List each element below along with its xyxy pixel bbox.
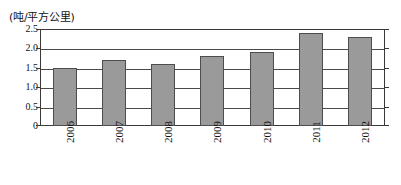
bar-2009[interactable] (200, 56, 224, 126)
y-tick-label-1-0: 1.0 (2, 82, 38, 92)
bar-slot (286, 29, 335, 126)
bar-slot (188, 29, 237, 126)
x-tick-label-2012: 2012 (360, 121, 371, 143)
x-label-slot: 2009 (188, 130, 237, 182)
x-tick-label-2007: 2007 (114, 121, 125, 143)
bar-chart-figure: (吨/平方公里) 2.5 2.0 1.5 1.0 0.5 0 (0, 0, 401, 185)
x-tick-label-2010: 2010 (262, 121, 273, 143)
x-tick-label-2008: 2008 (163, 121, 174, 143)
bar-2007[interactable] (102, 60, 126, 126)
x-label-slot: 2011 (286, 130, 335, 182)
x-label-slot: 2006 (40, 130, 89, 182)
bar-slot (139, 29, 188, 126)
y-tick-label-2-5: 2.5 (2, 24, 38, 34)
bar-slot (89, 29, 138, 126)
x-tick-label-2009: 2009 (212, 121, 223, 143)
y-axis-tick-labels: 2.5 2.0 1.5 1.0 0.5 0 (0, 29, 38, 126)
bar-series (40, 29, 385, 126)
bar-2012[interactable] (348, 37, 372, 126)
x-label-slot: 2007 (89, 130, 138, 182)
x-label-slot: 2010 (237, 130, 286, 182)
tick-right-1-5 (385, 68, 389, 69)
y-tick-label-1-5: 1.5 (2, 63, 38, 73)
bar-2008[interactable] (151, 64, 175, 126)
x-label-slot: 2008 (139, 130, 188, 182)
bar-2010[interactable] (250, 52, 274, 126)
bar-2006[interactable] (53, 68, 77, 126)
bar-slot (237, 29, 286, 126)
y-tick-label-0-5: 0.5 (2, 102, 38, 112)
x-tick-label-2011: 2011 (311, 121, 322, 143)
bar-slot (336, 29, 385, 126)
tick-right-2-0 (385, 48, 389, 49)
tick-right-0 (385, 125, 389, 126)
bar-slot (40, 29, 89, 126)
x-tick-label-2006: 2006 (65, 121, 76, 143)
y-axis-unit-caption: (吨/平方公里) (9, 11, 75, 24)
x-label-slot: 2012 (336, 130, 385, 182)
x-axis-tick-labels: 2006 2007 2008 2009 2010 2011 2012 (40, 130, 385, 182)
y-tick-label-2-0: 2.0 (2, 43, 38, 53)
y-tick-label-0: 0 (2, 121, 38, 131)
bar-2011[interactable] (299, 33, 323, 126)
tick-right-2-5 (385, 29, 389, 30)
tick-right-0-5 (385, 107, 389, 108)
tick-right-1-0 (385, 87, 389, 88)
